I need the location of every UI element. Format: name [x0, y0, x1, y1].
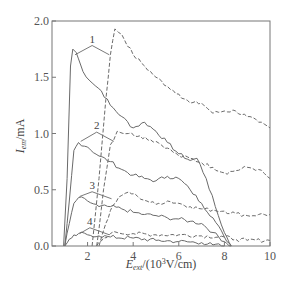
- curve-label-2: 2: [94, 119, 100, 131]
- y-tick-label: 2.0: [34, 14, 49, 28]
- x-tick-label: 10: [264, 249, 276, 263]
- y-tick-label: 0.0: [34, 239, 49, 253]
- x-tick-label: 8: [221, 249, 227, 263]
- y-tick-label: 0.5: [34, 183, 49, 197]
- chart-svg: 1234 246810 0.00.51.01.52.0 Eext/(103V/c…: [0, 0, 291, 292]
- curve-label-3: 3: [89, 179, 95, 191]
- y-tick-label: 1.5: [34, 70, 49, 84]
- curve-label-1: 1: [89, 33, 95, 45]
- y-tick-label: 1.0: [34, 127, 49, 141]
- curve-label-4: 4: [87, 215, 93, 227]
- x-tick-label: 2: [85, 249, 91, 263]
